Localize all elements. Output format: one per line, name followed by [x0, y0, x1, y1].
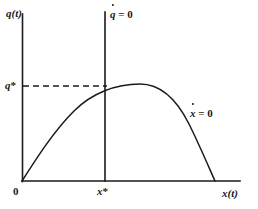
qdot-nullcline-label: q = 0	[110, 9, 133, 20]
x-dot-base: x	[190, 107, 196, 119]
phase-diagram-figure: q(t) x(t) 0 q = 0 x = 0 q* x*	[0, 0, 258, 209]
q-star-asterisk: *	[11, 79, 17, 91]
x-axis-label: x(t)	[222, 188, 238, 199]
origin-label: 0	[13, 186, 19, 197]
q-overdot-icon	[112, 4, 114, 6]
q-star-label: q*	[5, 80, 16, 91]
diagram-canvas	[0, 0, 258, 209]
x-dot-symbol: x	[190, 108, 196, 119]
x-overdot-icon	[192, 103, 194, 105]
xdot-nullcline-curve	[22, 84, 215, 181]
x-star-asterisk: *	[103, 185, 109, 197]
x-star-label: x*	[97, 186, 108, 197]
xdot-equation-rhs: = 0	[196, 107, 213, 119]
q-dot-base: q	[110, 8, 116, 20]
xdot-nullcline-label: x = 0	[190, 108, 213, 119]
qdot-equation-rhs: = 0	[116, 8, 133, 20]
q-dot-symbol: q	[110, 9, 116, 20]
y-axis-label: q(t)	[6, 8, 22, 19]
